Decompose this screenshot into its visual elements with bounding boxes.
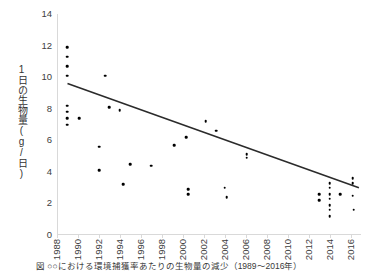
data-point bbox=[66, 46, 69, 49]
x-tick-mark bbox=[204, 235, 205, 238]
plot-area bbox=[57, 14, 361, 235]
data-point bbox=[223, 186, 226, 189]
x-tick-mark bbox=[288, 235, 289, 238]
data-point bbox=[98, 145, 101, 148]
x-tick-label: 2010 bbox=[283, 239, 293, 260]
data-point bbox=[328, 186, 331, 189]
data-point bbox=[351, 182, 354, 185]
x-tick-label: 1996 bbox=[136, 239, 146, 260]
x-tick-mark bbox=[99, 235, 100, 238]
x-tick-label: 2012 bbox=[304, 239, 314, 260]
data-point bbox=[78, 117, 81, 120]
data-point bbox=[318, 199, 321, 202]
x-tick-mark bbox=[309, 235, 310, 238]
data-point bbox=[245, 156, 248, 159]
data-point bbox=[328, 215, 331, 218]
x-tick-label: 2008 bbox=[262, 239, 272, 260]
data-point bbox=[318, 193, 321, 196]
x-tick-label: 1998 bbox=[157, 239, 167, 260]
data-point bbox=[351, 177, 354, 180]
x-tick-label: 2006 bbox=[241, 239, 251, 260]
data-point bbox=[66, 117, 69, 120]
data-point bbox=[328, 204, 331, 207]
data-point bbox=[328, 193, 331, 196]
data-point bbox=[352, 208, 355, 211]
data-point bbox=[98, 169, 101, 172]
x-tick-label: 2016 bbox=[346, 239, 356, 260]
x-tick-mark bbox=[183, 235, 184, 238]
scatter-chart: 1日の生物量(g/日) 14121086420 1988199019921994… bbox=[0, 0, 382, 271]
x-tick-mark bbox=[246, 235, 247, 238]
x-tick-mark bbox=[57, 235, 58, 238]
x-tick-label: 1994 bbox=[115, 239, 125, 260]
x-tick-label: 2002 bbox=[199, 239, 209, 260]
data-point bbox=[104, 74, 107, 77]
data-point bbox=[66, 65, 69, 68]
data-point bbox=[66, 123, 69, 126]
data-point bbox=[351, 194, 354, 197]
x-tick-label: 1988 bbox=[52, 239, 62, 260]
data-point bbox=[187, 188, 190, 191]
x-tick-mark bbox=[120, 235, 121, 238]
data-point bbox=[339, 193, 342, 196]
x-tick-mark bbox=[78, 235, 79, 238]
data-point bbox=[66, 111, 69, 114]
data-point bbox=[173, 144, 176, 147]
data-point bbox=[185, 136, 188, 139]
x-tick-mark bbox=[225, 235, 226, 238]
x-tick-mark bbox=[162, 235, 163, 238]
data-point bbox=[328, 208, 331, 211]
data-point bbox=[129, 163, 132, 166]
x-tick-mark bbox=[141, 235, 142, 238]
data-point bbox=[215, 130, 218, 133]
x-tick-label: 2014 bbox=[325, 239, 335, 260]
data-point bbox=[119, 109, 122, 112]
data-point bbox=[66, 74, 69, 77]
trendline bbox=[57, 14, 361, 235]
x-tick-label: 2000 bbox=[178, 239, 188, 260]
data-point bbox=[205, 120, 208, 123]
data-point bbox=[66, 55, 69, 58]
figure-caption: 図 ○○における環境捕獲率あたりの生物量の減少（1989〜2016年） bbox=[36, 262, 382, 271]
x-tick-label: 2004 bbox=[220, 239, 230, 260]
x-tick-mark bbox=[351, 235, 352, 238]
data-point bbox=[122, 183, 125, 186]
data-point bbox=[328, 182, 331, 185]
x-tick-label: 1990 bbox=[73, 239, 83, 260]
data-point bbox=[226, 196, 229, 199]
data-point bbox=[108, 106, 111, 109]
data-point bbox=[328, 197, 331, 200]
x-tick-mark bbox=[330, 235, 331, 238]
data-point bbox=[187, 193, 190, 196]
x-tick-label: 1992 bbox=[94, 239, 104, 260]
data-point bbox=[150, 164, 153, 167]
x-tick-mark bbox=[267, 235, 268, 238]
data-point bbox=[66, 104, 69, 107]
